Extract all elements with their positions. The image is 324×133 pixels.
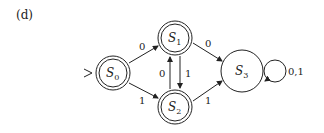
- edge-s2-s1: 0: [159, 57, 170, 89]
- edge-s3-self-loop: 0,1: [264, 60, 304, 82]
- edge-s2-s3: 1: [193, 81, 222, 106]
- svg-text:1: 1: [139, 95, 145, 106]
- state-diagram: 0 1 1 0 0 1 0,1 S0 S1 S2 S: [0, 0, 324, 133]
- start-arrow: [84, 69, 92, 77]
- svg-text:0: 0: [139, 41, 145, 52]
- state-s1: S1: [158, 21, 192, 55]
- svg-text:0: 0: [205, 38, 211, 49]
- edge-s1-s2: 1: [180, 56, 191, 88]
- state-s0: S0: [96, 56, 130, 90]
- svg-text:1: 1: [185, 68, 191, 79]
- svg-text:0: 0: [159, 68, 165, 79]
- edge-s0-s1: 0: [129, 41, 158, 63]
- svg-text:1: 1: [205, 95, 211, 106]
- svg-text:0,1: 0,1: [288, 66, 304, 77]
- edge-s1-s3: 0: [193, 38, 222, 61]
- state-s2: S2: [158, 90, 192, 124]
- state-s3: S3: [221, 50, 263, 92]
- edge-s0-s2: 1: [129, 83, 158, 106]
